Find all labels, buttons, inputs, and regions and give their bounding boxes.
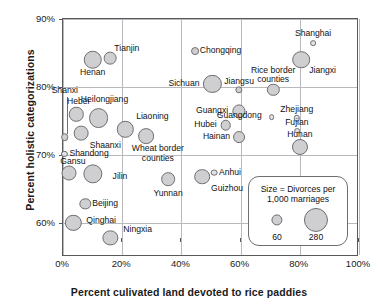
point-label-rice-border-counties: Rice bordercounties — [251, 66, 295, 85]
data-bubble-qinghai[interactable] — [65, 215, 81, 231]
data-bubble-chongqing[interactable] — [191, 47, 199, 55]
x-tick-label: 80% — [269, 258, 329, 269]
point-label-sichuan: Sichuan — [168, 79, 199, 89]
y-axis-title: Percent holistic categorizations — [24, 14, 36, 246]
y-tick-mark — [59, 19, 63, 20]
point-label-jiangxi: Jiangxi — [309, 66, 336, 76]
x-axis-title: Percent culivated land devoted to rice p… — [0, 286, 378, 298]
data-bubble-liaoning[interactable] — [117, 121, 133, 137]
size-legend: Size = Divorces per 1,000 marriages 6028… — [248, 176, 348, 246]
y-tick-mark — [59, 223, 63, 224]
legend-value-small: 60 — [257, 232, 297, 242]
x-tick-mark — [62, 238, 63, 242]
point-label-shanghai: Shanghai — [295, 29, 331, 39]
y-tick-label: 90% — [0, 13, 55, 24]
point-label-liaoning: Liaoning — [136, 112, 169, 122]
point-label-hainan: Hainan — [203, 132, 230, 142]
data-bubble-jiangsu[interactable] — [235, 86, 242, 93]
gridline-vertical — [122, 19, 123, 255]
x-tick-mark — [240, 238, 241, 242]
y-tick-label: 80% — [0, 81, 55, 92]
data-bubble-shanghai[interactable] — [310, 40, 316, 46]
legend-title-line1: Size = Divorces per — [249, 184, 347, 194]
point-label-shanxi: Shanxi — [52, 86, 78, 96]
x-tick-label: 0% — [32, 258, 92, 269]
data-bubble-guizhou[interactable] — [194, 169, 210, 185]
data-bubble-wheat-border-counties[interactable] — [138, 128, 154, 144]
x-tick-label: 20% — [91, 258, 151, 269]
point-label-beijing: Beijing — [92, 199, 118, 209]
data-bubble-hebei[interactable] — [69, 107, 83, 121]
legend-title-line2: 1,000 marriages — [249, 194, 347, 204]
legend-bubble-small — [271, 214, 282, 225]
chart-root: Percent holistic categorizations Percent… — [0, 0, 378, 307]
point-label-qinghai: Qinghai — [86, 216, 116, 226]
legend-bubble-large — [304, 208, 328, 232]
x-tick-label: 60% — [210, 258, 270, 269]
data-bubble-beijing[interactable] — [80, 198, 91, 209]
data-bubble-sichuan[interactable] — [203, 75, 221, 93]
data-bubble-rice-border-counties[interactable] — [267, 84, 279, 96]
point-label-anhui: Anhui — [219, 168, 241, 178]
y-tick-label: 60% — [0, 217, 55, 228]
point-label-fujian: Fujian — [285, 118, 308, 128]
legend-title: Size = Divorces per 1,000 marriages — [249, 184, 347, 205]
gridline-vertical — [181, 19, 182, 255]
point-label-guizhou: Guizhou — [211, 184, 243, 194]
point-label-hubei: Hubei — [194, 120, 216, 130]
point-label-heilongjiang: Heilongjiang — [81, 95, 128, 105]
point-label-hunan: Hunan — [287, 130, 312, 140]
point-label-jilin: Jilin — [113, 172, 128, 182]
data-bubble-gansu[interactable] — [61, 165, 76, 180]
data-bubble-shanxi[interactable] — [61, 134, 69, 142]
point-label-ningxia: Ningxia — [123, 225, 152, 235]
x-tick-label: 40% — [150, 258, 210, 269]
gridline-vertical — [359, 19, 360, 255]
legend-value-large: 280 — [296, 232, 336, 242]
point-label-wheat-border-counties: Wheat bordercounties — [132, 144, 184, 163]
point-label-henan: Henan — [80, 68, 105, 78]
data-bubble-heilongjiang[interactable] — [89, 108, 109, 128]
data-bubble-hubei[interactable] — [221, 120, 232, 131]
point-label-zhejiang: Zhejiang — [280, 105, 313, 115]
point-label-tianjin: Tianjin — [114, 44, 139, 54]
data-bubble-jilin[interactable] — [83, 164, 102, 183]
point-label-jiangsu: Jiangsu — [224, 77, 254, 87]
x-tick-mark — [180, 238, 181, 242]
point-label-gansu: Gansu — [60, 157, 85, 167]
y-tick-label: 70% — [0, 149, 55, 160]
data-bubble-hunan[interactable] — [292, 139, 308, 155]
point-label-yunnan: Yunnan — [154, 189, 183, 199]
data-bubble-guangdong[interactable] — [269, 114, 275, 120]
data-bubble-yunnan[interactable] — [161, 173, 175, 187]
gridline-horizontal — [63, 19, 357, 20]
data-bubble-hainan[interactable] — [233, 131, 245, 143]
data-bubble-ningxia[interactable] — [103, 230, 118, 245]
point-label-chongqing: Chongqing — [200, 46, 242, 56]
x-tick-mark — [121, 238, 122, 242]
x-tick-mark — [358, 238, 359, 242]
data-bubble-anhui[interactable] — [211, 169, 218, 176]
x-tick-label: 100% — [328, 258, 378, 269]
data-bubble-shaanxi[interactable] — [73, 126, 88, 141]
